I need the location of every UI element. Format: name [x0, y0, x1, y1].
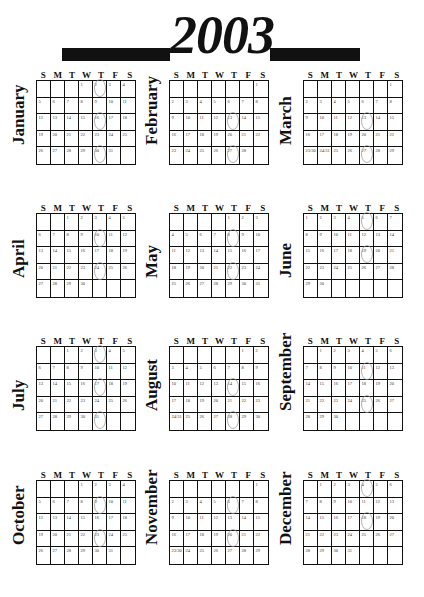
day-cell: 25 [360, 397, 374, 414]
day-cell: 14 [226, 380, 240, 397]
day-cell: 30 [93, 547, 107, 564]
day-number: 17 [320, 132, 325, 137]
day-cell [226, 81, 240, 98]
day-number: 25 [200, 148, 205, 153]
day-number: 2 [172, 99, 174, 104]
day-number: 15 [242, 381, 247, 386]
day-cell: 3 [170, 364, 184, 381]
weekday-label: T [332, 203, 346, 213]
day-cell [51, 81, 65, 98]
day-cell: 3 [93, 347, 107, 364]
weekday-header: SMTWTFS [169, 70, 270, 80]
day-number: 17 [95, 248, 100, 253]
day-number: 20 [39, 398, 44, 403]
month-name-text: June [276, 243, 296, 278]
day-number: 5 [376, 482, 378, 487]
day-cell: 24 [332, 264, 346, 281]
day-cell: 16 [332, 514, 346, 531]
day-cell: 10 [184, 514, 198, 531]
day-cell [37, 347, 51, 364]
day-number: 6 [390, 348, 392, 353]
day-number: 24 [256, 265, 261, 270]
day-cell: 19 [212, 531, 226, 548]
weekday-label: W [346, 336, 360, 346]
day-number: 21 [376, 132, 381, 137]
handdrawn-circle-mark [361, 212, 373, 230]
weekday-label: M [50, 203, 64, 213]
day-cell: 10 [346, 364, 360, 381]
day-cell: 11 [107, 364, 121, 381]
day-cell: 19 [184, 264, 198, 281]
day-cell: 15 [254, 114, 268, 131]
day-number: 7 [306, 365, 308, 370]
day-cell: 18 [170, 264, 184, 281]
day-number: 9 [242, 232, 244, 237]
weekday-label: T [332, 70, 346, 80]
day-number: 12 [348, 115, 353, 120]
day-number: 22 [242, 398, 247, 403]
day-number: 25 [172, 281, 177, 286]
month-name-text: July [9, 380, 29, 411]
day-number: 24 [348, 532, 353, 537]
day-cell [198, 347, 212, 364]
day-cell: 27 [374, 264, 388, 281]
day-cell: 10 [107, 98, 121, 115]
day-number: 21 [67, 532, 72, 537]
day-number: 31 [348, 548, 353, 553]
day-cell: 23 [79, 397, 93, 414]
weekday-label: F [241, 70, 255, 80]
day-number: 13 [214, 381, 219, 386]
month-label: May [137, 213, 167, 298]
weekday-label: W [79, 470, 93, 480]
weekday-label: S [123, 336, 137, 346]
day-cell: 10 [332, 231, 346, 248]
weekday-label: M [183, 70, 197, 80]
day-number: 23 [334, 398, 339, 403]
day-number: 21 [390, 248, 395, 253]
day-cell: 21 [240, 131, 254, 148]
day-number: 12 [39, 515, 44, 520]
handdrawn-circle-mark [361, 362, 373, 380]
month-label: June [271, 213, 301, 298]
handdrawn-circle-mark [227, 378, 239, 396]
day-cell: 9 [332, 498, 346, 515]
day-cell: 22 [388, 131, 402, 148]
day-number: 13 [53, 115, 58, 120]
day-cell: 8 [79, 98, 93, 115]
day-number: 23 [172, 148, 177, 153]
day-number: 21 [67, 132, 72, 137]
day-number: 19 [123, 248, 128, 253]
day-cell: 1 [318, 481, 332, 498]
handdrawn-circle-mark [227, 496, 239, 514]
weekday-label: T [227, 336, 241, 346]
day-cell: 25 [332, 147, 346, 164]
day-number: 23 [95, 132, 100, 137]
day-cell: 9 [332, 364, 346, 381]
day-cell: 2 [170, 98, 184, 115]
day-number: 29 [320, 414, 325, 419]
day-cell [184, 481, 198, 498]
day-cell: 6 [226, 498, 240, 515]
day-number: 6 [39, 365, 41, 370]
day-cell: 29 [226, 280, 240, 297]
handdrawn-circle-mark [227, 262, 239, 280]
day-cell: 28 [212, 280, 226, 297]
day-number: 18 [109, 381, 114, 386]
day-cell: 12 [121, 231, 135, 248]
day-cell [346, 81, 360, 98]
day-number: 22 [320, 532, 325, 537]
day-number: 19 [214, 132, 219, 137]
month-name-text: December [276, 471, 296, 545]
weekday-label: F [241, 203, 255, 213]
day-cell: 7 [65, 98, 79, 115]
day-number: 13 [53, 515, 58, 520]
month-label: September [271, 346, 301, 431]
day-cell: 24 [346, 531, 360, 548]
day-cell: 19 [198, 397, 212, 414]
day-number: 12 [200, 381, 205, 386]
day-cell [226, 347, 240, 364]
weekday-label: F [375, 203, 389, 213]
day-cell: 9 [254, 364, 268, 381]
day-cell [360, 81, 374, 98]
day-number: 10 [334, 232, 339, 237]
